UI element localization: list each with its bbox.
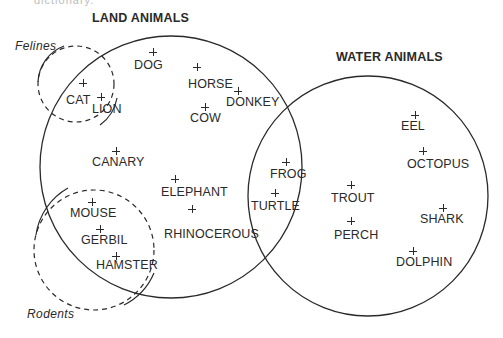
animal-label-trout: TROUT — [331, 192, 375, 205]
plus-marker-icon — [149, 48, 157, 56]
plus-marker-icon — [409, 247, 417, 255]
animal-label-perch: PERCH — [334, 229, 378, 242]
plus-marker-icon — [271, 189, 279, 197]
plus-marker-icon — [96, 225, 104, 233]
animal-label-elephant: ELEPHANT — [161, 186, 228, 199]
animal-label-hamster: HAMSTER — [96, 259, 158, 272]
animal-label-mouse: MOUSE — [70, 207, 116, 220]
plus-marker-icon — [171, 175, 179, 183]
venn-diagram: dictionary. LAND ANIMALS WATER ANIMALS F… — [0, 0, 503, 338]
plus-marker-icon — [112, 147, 120, 155]
animal-label-canary: CANARY — [92, 156, 144, 169]
plus-marker-icon — [347, 181, 355, 189]
rodents-label: Rodents — [27, 308, 75, 320]
animal-label-turtle: TURTLE — [251, 200, 300, 213]
animal-label-horse: HORSE — [188, 78, 233, 91]
animal-label-shark: SHARK — [420, 213, 464, 226]
animal-label-eel: EEL — [401, 120, 425, 133]
animal-label-gerbil: GERBIL — [81, 234, 127, 247]
plus-marker-icon — [282, 158, 290, 166]
animal-label-octopus: OCTOPUS — [407, 158, 469, 171]
plus-marker-icon — [193, 63, 201, 71]
plus-marker-icon — [88, 198, 96, 206]
plus-marker-icon — [234, 87, 242, 95]
animal-label-cat: CAT — [66, 94, 90, 107]
plus-marker-icon — [79, 79, 87, 87]
rodents-bracket-upper — [36, 188, 68, 235]
plus-marker-icon — [411, 111, 419, 119]
plus-marker-icon — [419, 147, 427, 155]
animal-label-rhinocerous: RHINOCEROUS — [164, 228, 259, 241]
land-animals-circle — [40, 36, 302, 298]
animal-label-dog: DOG — [134, 59, 163, 72]
plus-marker-icon — [439, 204, 447, 212]
animal-label-dolphin: DOLPHIN — [396, 256, 452, 269]
plus-marker-icon — [97, 93, 105, 101]
animal-label-frog: FROG — [270, 168, 307, 181]
land-animals-title: LAND ANIMALS — [92, 12, 189, 25]
plus-marker-icon — [347, 217, 355, 225]
plus-marker-icon — [201, 103, 209, 111]
animal-label-cow: COW — [190, 112, 221, 125]
felines-label: Felines — [15, 40, 56, 52]
animal-label-lion: LION — [92, 103, 122, 116]
water-animals-title: WATER ANIMALS — [336, 51, 443, 64]
rodents-bracket-lower — [124, 273, 154, 305]
plus-marker-icon — [188, 205, 196, 213]
animal-label-donkey: DONKEY — [226, 96, 279, 109]
